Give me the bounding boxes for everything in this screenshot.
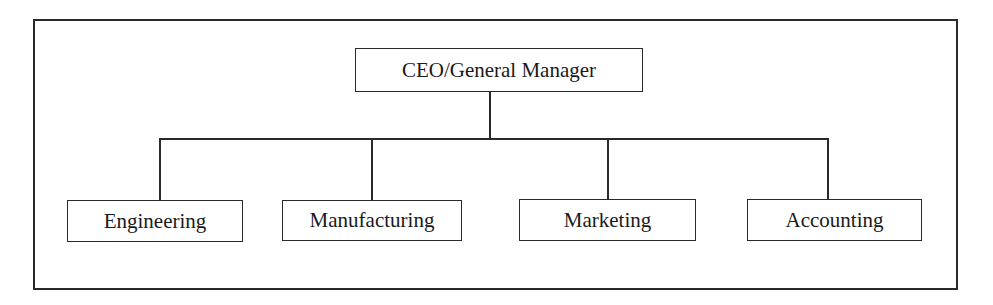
marketing-node-label: Marketing [564, 208, 651, 233]
ceo-node: CEO/General Manager [355, 48, 643, 92]
engineering-node-label: Engineering [104, 209, 207, 234]
connector-ceo-down [489, 91, 491, 140]
accounting-node: Accounting [747, 199, 922, 241]
ceo-node-label: CEO/General Manager [402, 58, 596, 83]
manufacturing-node: Manufacturing [282, 200, 462, 241]
connector-manufacturing [371, 138, 373, 200]
manufacturing-node-label: Manufacturing [310, 208, 435, 233]
engineering-node: Engineering [67, 200, 243, 242]
marketing-node: Marketing [519, 199, 696, 241]
accounting-node-label: Accounting [786, 208, 884, 233]
connector-engineering [159, 138, 161, 200]
connector-accounting [827, 138, 829, 199]
connector-marketing [607, 138, 609, 199]
connector-horizontal-bus [159, 138, 829, 140]
